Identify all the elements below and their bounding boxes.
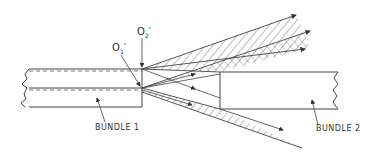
fiber-bundle-diagram [0,0,381,165]
bundle-2-label: BUNDLE 2 [316,124,361,133]
bundle-2 [220,72,338,109]
o1-prime-label: O1′ [112,42,126,55]
bundle-1-label: BUNDLE 1 [95,123,140,132]
upper-ray-fan [142,14,312,88]
o2-prime-label: O2′ [137,26,151,39]
lower-ray-band [142,88,302,148]
bundle-1 [21,69,142,107]
